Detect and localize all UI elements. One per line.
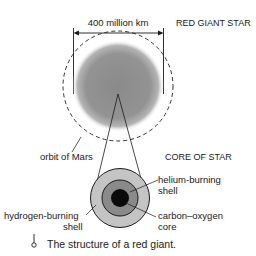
red-giant-diagram: 400 million km RED GIANT STAR orbit of M… <box>0 0 256 256</box>
helium-label-2: shell <box>158 185 178 196</box>
helium-label-1: helium-burning <box>158 174 221 185</box>
star-core <box>91 169 150 228</box>
red-giant-title: RED GIANT STAR <box>176 18 251 28</box>
caption-text: The structure of a red giant. <box>47 238 176 250</box>
hydrogen-label-2: shell <box>63 221 83 232</box>
core-title: CORE OF STAR <box>165 152 232 162</box>
hydrogen-label-1: hydrogen-burning <box>4 210 78 221</box>
orbit-leader-line <box>72 137 81 152</box>
dimension-label: 400 million km <box>88 17 149 28</box>
carbon-oxygen-core <box>111 189 129 207</box>
pin-icon <box>32 234 36 247</box>
carbon-label-2: core <box>158 221 176 232</box>
carbon-label-1: carbon–oxygen <box>158 210 223 221</box>
orbit-label: orbit of Mars <box>40 151 93 162</box>
red-giant-star <box>72 40 164 132</box>
